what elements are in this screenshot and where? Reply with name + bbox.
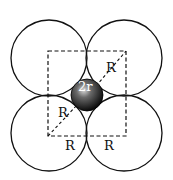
void-sphere-label: 2r [78, 79, 93, 94]
label-bottom-right: R [104, 138, 115, 153]
label-bottom-left: R [65, 138, 76, 153]
octahedral-void-diagram: 2r R R R R [0, 0, 173, 180]
label-upper-diag: R [106, 60, 117, 75]
label-lower-diag: R [58, 105, 69, 120]
